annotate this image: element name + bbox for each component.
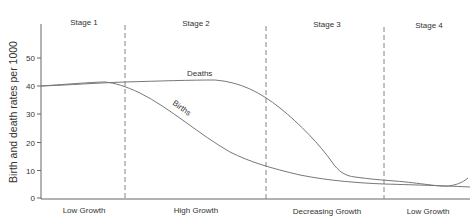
- births-label: Births: [171, 98, 193, 117]
- stage-3-label: Stage 3: [313, 20, 341, 29]
- growth-1-label: Low Growth: [63, 206, 106, 215]
- y-axis-label: Birth and death rates per 1000: [7, 41, 19, 183]
- stage-labels: Stage 1 Stage 2 Stage 3 Stage 4: [70, 18, 443, 30]
- stage-2-label: Stage 2: [182, 19, 210, 28]
- growth-2-label: High Growth: [174, 206, 218, 215]
- growth-3-label: Decreasing Growth: [293, 207, 361, 216]
- stage-dividers: [125, 25, 384, 199]
- deaths-label: Deaths: [187, 69, 212, 78]
- y-ticks: [37, 58, 41, 198]
- svg-text:20: 20: [26, 139, 35, 148]
- stage-1-label: Stage 1: [70, 18, 98, 27]
- deaths-curve: [41, 80, 468, 186]
- growth-labels: Low Growth High Growth Decreasing Growth…: [63, 206, 450, 216]
- svg-text:0: 0: [31, 194, 36, 203]
- growth-4-label: Low Growth: [407, 207, 450, 216]
- svg-text:10: 10: [26, 167, 35, 176]
- births-curve: [41, 82, 470, 187]
- y-tick-labels: 0 10 20 30 40 50: [26, 54, 35, 203]
- svg-text:40: 40: [26, 82, 35, 91]
- stage-4-label: Stage 4: [415, 21, 443, 30]
- demographic-transition-chart: Birth and death rates per 1000 0 10 20 3…: [0, 0, 474, 218]
- svg-text:30: 30: [26, 110, 35, 119]
- svg-text:50: 50: [26, 54, 35, 63]
